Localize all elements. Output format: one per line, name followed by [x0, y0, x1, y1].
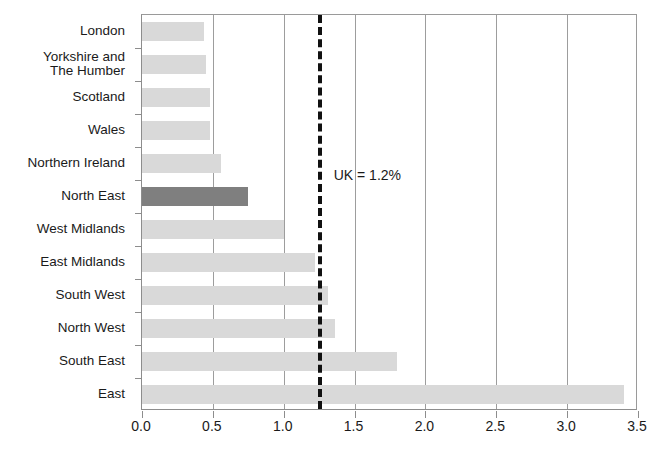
- bar-chart: LondonYorkshire and The HumberScotlandWa…: [0, 0, 660, 450]
- bar: [142, 55, 206, 74]
- y-axis-label: Scotland: [0, 80, 133, 113]
- y-axis-label: Yorkshire and The Humber: [0, 47, 133, 80]
- y-axis-category-labels: LondonYorkshire and The HumberScotlandWa…: [0, 14, 133, 410]
- uk-average-annotation: UK = 1.2%: [334, 167, 401, 183]
- gridline: [496, 15, 497, 409]
- bar: [142, 319, 335, 338]
- y-axis-tick: [135, 378, 142, 379]
- y-axis-label: West Midlands: [0, 212, 133, 245]
- y-axis-tick: [135, 147, 142, 148]
- gridline: [213, 15, 214, 409]
- x-axis-tick-label: 2.0: [415, 418, 434, 434]
- x-axis-tick: [142, 411, 143, 418]
- x-axis-tick-label: 0.0: [131, 418, 150, 434]
- y-axis-tick: [135, 180, 142, 181]
- y-axis-tick: [135, 213, 142, 214]
- y-axis-tick: [135, 81, 142, 82]
- y-axis-label: London: [0, 14, 133, 47]
- x-axis-tick-label: 0.5: [202, 418, 221, 434]
- gridline: [284, 15, 285, 409]
- bar: [142, 352, 397, 371]
- plot-area: UK = 1.2%: [141, 14, 637, 410]
- x-axis-tick: [284, 411, 285, 418]
- x-axis-tick-label: 1.0: [273, 418, 292, 434]
- x-axis-tick: [355, 411, 356, 418]
- x-axis-tick-labels: 0.00.51.01.52.02.53.03.5: [141, 418, 637, 440]
- y-axis-label: East Midlands: [0, 245, 133, 278]
- x-axis-tick-label: 3.0: [556, 418, 575, 434]
- y-axis-label: South West: [0, 278, 133, 311]
- y-axis-label: North West: [0, 311, 133, 344]
- x-axis-tick: [425, 411, 426, 418]
- x-axis-tick-label: 2.5: [486, 418, 505, 434]
- y-axis-label: Northern Ireland: [0, 146, 133, 179]
- y-axis-tick: [135, 114, 142, 115]
- gridline: [567, 15, 568, 409]
- bar: [142, 286, 328, 305]
- x-axis-tick-label: 3.5: [627, 418, 646, 434]
- y-axis-tick: [135, 246, 142, 247]
- bar: [142, 154, 221, 173]
- bar: [142, 121, 210, 140]
- y-axis-label: North East: [0, 179, 133, 212]
- bar: [142, 385, 624, 404]
- x-axis-tick: [213, 411, 214, 418]
- y-axis-tick: [135, 345, 142, 346]
- y-axis-tick: [135, 279, 142, 280]
- uk-average-reference-line: [318, 15, 322, 409]
- bar: [142, 187, 248, 206]
- bar: [142, 22, 204, 41]
- bar: [142, 253, 315, 272]
- x-axis-tick: [496, 411, 497, 418]
- y-axis-tick: [135, 312, 142, 313]
- bar: [142, 220, 284, 239]
- y-axis-label: East: [0, 377, 133, 410]
- bar: [142, 88, 210, 107]
- gridline: [425, 15, 426, 409]
- x-axis-tick-label: 1.5: [344, 418, 363, 434]
- gridline: [355, 15, 356, 409]
- x-axis-tick: [638, 411, 639, 418]
- x-axis-tick: [567, 411, 568, 418]
- y-axis-label: South East: [0, 344, 133, 377]
- y-axis-label: Wales: [0, 113, 133, 146]
- y-axis-tick: [135, 48, 142, 49]
